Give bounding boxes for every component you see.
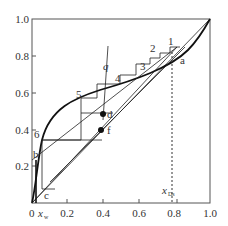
stage-label-6: 6 xyxy=(34,128,40,140)
point-d xyxy=(100,111,106,117)
x-ticks xyxy=(67,199,177,203)
y-tick-label: 0.2 xyxy=(15,160,29,172)
operating-line-2 xyxy=(50,47,185,182)
point-f xyxy=(98,127,104,133)
xw-subscript: w xyxy=(44,214,49,220)
x-tick-label: 0.8 xyxy=(167,207,181,219)
stage-label-3: 3 xyxy=(140,60,146,72)
x-tick-label: 0.6 xyxy=(132,207,146,219)
stage-label-1: 1 xyxy=(168,35,174,47)
y-tick-label: 0.8 xyxy=(15,50,29,62)
x-tick-label: 0.2 xyxy=(60,207,74,219)
xw-label: x xyxy=(37,207,43,219)
mccabe-thiele-diagram: 1.0 0.8 0.6 0.4 0.2 0 x w 0.2 0.4 0.6 0.… xyxy=(0,0,228,226)
y-tick-label: 0.6 xyxy=(15,87,29,99)
xds-label: x xyxy=(161,184,167,196)
x-tick-label: 0.4 xyxy=(96,207,110,219)
xds-subscript: Ds xyxy=(168,191,175,197)
q-label: q xyxy=(103,60,109,72)
stage-label-2: 2 xyxy=(150,42,156,54)
x-tick-label: 1.0 xyxy=(203,207,217,219)
stage-label-4: 4 xyxy=(115,72,121,84)
point-f-label: f xyxy=(107,124,111,136)
y-tick-label: 1.0 xyxy=(15,13,29,25)
x-tick-label: 0 xyxy=(29,207,35,219)
stage-label-5: 5 xyxy=(76,88,82,100)
point-a-label: a xyxy=(180,54,185,66)
point-c-label: c xyxy=(44,189,49,201)
point-b-label: b xyxy=(33,148,39,160)
y-tick-label: 0.4 xyxy=(15,124,29,136)
point-d-label: d xyxy=(107,108,113,120)
